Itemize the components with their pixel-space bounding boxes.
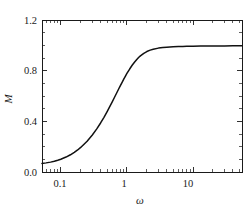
x-axis-major-ticks — [61, 20, 193, 172]
y-tick-label: 0.0 — [24, 167, 37, 178]
y-axis-title: M — [2, 94, 14, 105]
x-axis-title: ω — [136, 194, 144, 206]
y-axis-major-ticks — [42, 20, 242, 172]
figure-container: 1.2 0.8 0.4 0.0 0.1 1 10 ω M — [0, 0, 251, 209]
y-tick-label: 1.2 — [24, 15, 37, 26]
series-group — [42, 46, 242, 164]
x-tick-label: 10 — [183, 178, 194, 189]
x-tick-label: 1 — [121, 178, 126, 189]
y-tick-label: 0.8 — [24, 65, 37, 76]
x-axis-minor-ticks — [46, 20, 239, 172]
y-axis-minor-ticks — [42, 33, 242, 160]
x-tick-labels: 0.1 1 10 — [53, 178, 193, 189]
y-tick-label: 0.4 — [24, 116, 38, 127]
data-series-line — [42, 46, 242, 164]
chart-canvas: 1.2 0.8 0.4 0.0 0.1 1 10 ω M — [0, 0, 251, 209]
x-tick-label: 0.1 — [53, 178, 66, 189]
plot-frame — [42, 20, 242, 172]
y-tick-labels: 1.2 0.8 0.4 0.0 — [24, 15, 38, 178]
